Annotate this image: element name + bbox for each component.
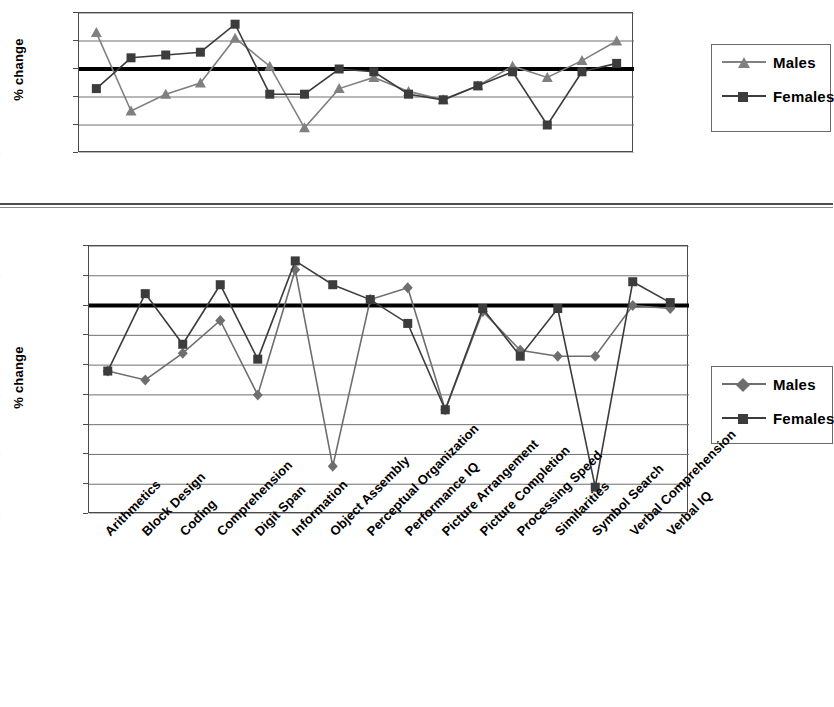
- data-point: [265, 90, 274, 99]
- data-point: [666, 298, 675, 307]
- y-tick-mark: [73, 152, 78, 153]
- legend-item-males: Males: [712, 45, 830, 79]
- data-point: [369, 67, 378, 76]
- data-point: [612, 59, 621, 68]
- females-marker-icon: [722, 410, 766, 426]
- data-point: [335, 65, 344, 74]
- data-point: [553, 304, 562, 313]
- data-point: [543, 121, 552, 130]
- data-point: [516, 352, 525, 361]
- data-point: [178, 340, 187, 349]
- data-point: [141, 289, 150, 298]
- bottom-chart: % change 1050-5-10-15-20-25-30-35 Males …: [0, 240, 720, 525]
- data-point: [366, 295, 375, 304]
- data-point: [230, 33, 241, 43]
- top-chart: % change 1050-5-10-15 Males Females: [0, 0, 720, 180]
- data-point: [441, 405, 450, 414]
- females-marker-icon: [722, 88, 766, 104]
- males-marker-icon: [722, 54, 766, 70]
- data-point: [216, 280, 225, 289]
- data-point: [127, 53, 136, 62]
- data-point: [140, 375, 150, 386]
- data-point: [253, 389, 263, 400]
- data-point: [300, 90, 309, 99]
- data-point: [508, 67, 517, 76]
- data-point: [126, 106, 137, 116]
- data-point: [403, 319, 412, 328]
- section-divider: [0, 203, 833, 205]
- legend-label-males: Males: [773, 54, 816, 71]
- data-point: [328, 461, 338, 472]
- data-point: [628, 277, 637, 286]
- data-point: [404, 90, 413, 99]
- data-point: [328, 280, 337, 289]
- legend-item-males: Males: [712, 367, 832, 401]
- x-axis-category-labels: ArithmeticsBlock DesignCodingComprehensi…: [0, 520, 833, 707]
- legend-label-males: Males: [773, 376, 816, 393]
- top-chart-plot-area: [78, 12, 633, 152]
- data-point: [577, 67, 586, 76]
- data-point: [103, 367, 112, 376]
- y-tick-mark: [83, 513, 88, 514]
- data-point: [478, 304, 487, 313]
- top-chart-svg: [79, 13, 634, 153]
- data-point: [253, 355, 262, 364]
- data-point: [91, 27, 102, 37]
- bottom-chart-y-axis-title: % change: [11, 339, 26, 417]
- data-point: [553, 351, 563, 362]
- data-point: [161, 51, 170, 60]
- top-chart-legend: Males Females: [711, 44, 831, 132]
- legend-item-females: Females: [712, 79, 830, 113]
- males-marker-icon: [722, 376, 766, 392]
- data-point: [576, 55, 587, 65]
- data-point: [92, 84, 101, 93]
- legend-label-females: Females: [773, 88, 834, 105]
- data-point: [403, 282, 413, 293]
- data-point: [196, 48, 205, 57]
- data-point: [291, 256, 300, 265]
- legend-label-females: Females: [773, 410, 834, 427]
- data-point: [231, 20, 240, 29]
- data-point: [473, 81, 482, 90]
- data-point: [439, 95, 448, 104]
- top-chart-y-axis-title: % change: [11, 35, 26, 105]
